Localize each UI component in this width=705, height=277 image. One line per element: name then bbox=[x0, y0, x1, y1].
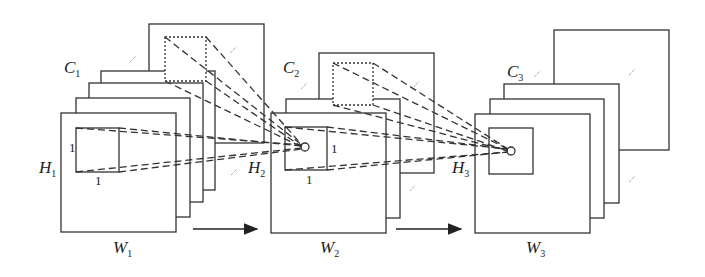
channel-label-3: C3 bbox=[507, 62, 523, 83]
channel-label-1: C1 bbox=[64, 58, 80, 79]
height-label-1: H1 bbox=[39, 158, 56, 179]
kernel-w-label-1: 1 bbox=[95, 173, 102, 189]
diagram-canvas bbox=[0, 0, 705, 277]
kernel-h-label-2: 1 bbox=[331, 141, 338, 157]
kernel-h-label-1: 1 bbox=[69, 140, 76, 156]
feature-stack-1 bbox=[61, 24, 264, 232]
feature-stack-2 bbox=[271, 53, 434, 233]
width-label-1: W1 bbox=[113, 238, 132, 259]
width-label-3: W3 bbox=[526, 238, 545, 259]
width-label-2: W2 bbox=[320, 238, 339, 259]
feature-stack-3 bbox=[475, 30, 669, 233]
height-label-2: H2 bbox=[248, 158, 265, 179]
kernel-w-label-2: 1 bbox=[306, 172, 313, 188]
channel-label-2: C2 bbox=[283, 58, 299, 79]
height-label-3: H3 bbox=[452, 158, 469, 179]
